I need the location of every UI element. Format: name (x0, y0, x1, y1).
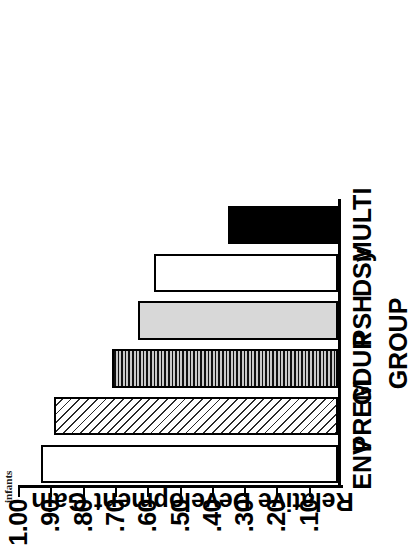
value-tick (309, 488, 311, 497)
value-tick (276, 488, 278, 497)
value-tick (115, 488, 117, 497)
value-tick-label: .30 (232, 499, 257, 532)
bar-multi (228, 206, 338, 244)
plot-area: 1.00.90.80.70.60.50.40.30.20.10 ENVPREMG… (18, 201, 341, 488)
value-tick (83, 488, 85, 497)
value-tick-label: .40 (199, 499, 224, 532)
value-tick (180, 488, 182, 497)
bar-psh (138, 301, 338, 339)
value-tick (244, 488, 246, 497)
bar-prem (54, 397, 338, 435)
value-tick (212, 488, 214, 497)
value-tick (18, 488, 20, 497)
bar-env (41, 445, 338, 483)
value-tick-label: .50 (167, 499, 192, 532)
value-tick (50, 488, 52, 497)
category-label-psh: PSH (350, 295, 375, 346)
bar-dsy (154, 254, 338, 292)
value-tick (147, 488, 149, 497)
value-tick-label: .10 (296, 499, 321, 532)
value-tick-label: .60 (135, 499, 160, 532)
category-label-multi: MULTI (350, 188, 375, 263)
category-axis-line (338, 199, 341, 488)
value-tick-label: 1.00 (6, 499, 31, 546)
value-tick-label: .80 (70, 499, 95, 532)
value-tick-label: .90 (38, 499, 63, 532)
value-tick-label: .20 (264, 499, 289, 532)
category-axis-title: GROUP (386, 199, 411, 488)
value-tick-label: .70 (102, 499, 127, 532)
bar-gdur (112, 349, 338, 387)
